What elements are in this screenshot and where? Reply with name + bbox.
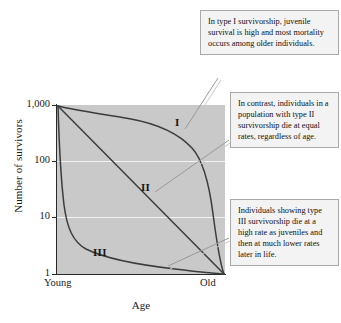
gridline-10 xyxy=(57,217,225,218)
x-tick-label-old: Old xyxy=(200,277,216,288)
y-tick-label-1000: 1,000 xyxy=(26,99,50,110)
callout-type-2: In contrast, individuals in a population… xyxy=(230,92,339,148)
callout-type-3: Individuals showing type III survivorshi… xyxy=(230,199,339,266)
y-axis-title: Number of survivors xyxy=(12,101,24,231)
y-tick-label-100: 100 xyxy=(34,155,50,166)
curve-label-type-2: II xyxy=(141,181,150,193)
x-axis-line xyxy=(56,274,226,275)
survivorship-figure: 1,000 100 10 1 Number of survivors Age Y… xyxy=(0,0,341,323)
y-tick-100 xyxy=(52,161,56,162)
callout-type-1: In type I survivorship, juvenile surviva… xyxy=(200,10,339,55)
y-tick-1000 xyxy=(52,105,56,106)
gridline-100 xyxy=(57,161,225,162)
curve-label-type-3: III xyxy=(93,246,107,258)
y-tick-10 xyxy=(52,217,56,218)
y-tick-label-10: 10 xyxy=(40,211,51,222)
curve-label-type-1: I xyxy=(175,116,180,128)
y-tick-1 xyxy=(52,274,56,275)
x-axis-title: Age xyxy=(57,299,225,311)
y-axis-line xyxy=(56,104,57,275)
x-tick-label-young: Young xyxy=(44,277,72,288)
